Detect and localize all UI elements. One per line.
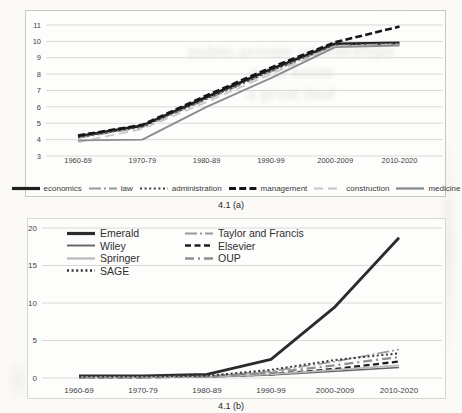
- series-line-economics: [78, 43, 400, 136]
- x-tick-label: 1980-89: [193, 156, 221, 165]
- legend-item-management: management: [228, 184, 308, 193]
- legend-item-springer: Springer: [66, 252, 184, 265]
- chart-b-panel: 051015201960-691970-791980-891990-992000…: [27, 218, 446, 399]
- legend-label: management: [261, 184, 308, 193]
- x-tick-label: 1960-69: [64, 156, 92, 165]
- y-tick-label: 10: [28, 299, 37, 308]
- y-tick-label: 7: [37, 86, 41, 95]
- x-tick-label: 1970-79: [129, 156, 157, 165]
- legend-label: economics: [44, 184, 82, 193]
- y-tick-label: 6: [37, 103, 41, 112]
- legend-label: Springer: [100, 252, 140, 265]
- legend-item-elsevier: Elsevier: [184, 240, 304, 253]
- legend-label: medicine: [428, 184, 460, 193]
- x-tick-label: 2000-2009: [317, 156, 353, 165]
- legend-item-law: law: [88, 184, 133, 193]
- legend-item-economics: economics: [11, 184, 82, 193]
- x-tick-label: 1960-69: [64, 386, 94, 395]
- legend-item-emerald: Emerald: [66, 227, 184, 240]
- legend-swatch-sage: [66, 266, 96, 275]
- legend-label: law: [121, 184, 133, 193]
- legend-swatch-economics: [11, 184, 41, 193]
- y-tick-label: 5: [37, 119, 41, 128]
- chart-a-plot: 345678910111960-691970-791980-891990-992…: [26, 11, 447, 171]
- legend-swatch-medicine: [395, 184, 425, 193]
- legend-label: Wiley: [100, 240, 126, 253]
- y-tick-label: 0: [33, 374, 38, 383]
- legend-item-sage: SAGE: [66, 265, 184, 278]
- legend-item-administration: administration: [139, 184, 222, 193]
- y-tick-label: 11: [33, 21, 41, 30]
- legend-swatch-springer: [66, 254, 96, 263]
- y-tick-label: 4: [37, 135, 41, 144]
- y-tick-label: 20: [28, 224, 37, 233]
- chart-a-caption: 4.1 (a): [0, 200, 462, 210]
- y-tick-label: 3: [37, 152, 41, 161]
- legend-label: OUP: [218, 252, 241, 265]
- legend-label: Emerald: [100, 227, 139, 240]
- y-tick-label: 8: [37, 70, 41, 79]
- x-tick-label: 2000-2009: [316, 386, 355, 395]
- x-tick-label: 1980-89: [192, 386, 222, 395]
- x-tick-label: 1970-79: [128, 386, 158, 395]
- legend-label: administration: [172, 184, 222, 193]
- chart-b-legend: EmeraldTaylor and FrancisWileyElsevierSp…: [66, 227, 304, 277]
- legend-swatch-management: [228, 184, 258, 193]
- series-line-sage: [79, 353, 399, 376]
- x-tick-label: 2010-2020: [380, 386, 419, 395]
- chart-a-legend: economicslawadministrationmanagementcons…: [26, 184, 445, 193]
- legend-swatch-taylor-and-francis: [184, 229, 214, 238]
- x-tick-label: 1990-99: [256, 386, 286, 395]
- legend-item-medicine: medicine: [395, 184, 460, 193]
- chart-b-caption: 4.1 (b): [0, 401, 462, 411]
- legend-label: SAGE: [100, 265, 129, 278]
- legend-swatch-emerald: [66, 229, 96, 238]
- chart-a-panel: public-private partnerships must know a …: [25, 10, 446, 197]
- legend-swatch-administration: [139, 184, 169, 193]
- legend-label: Taylor and Francis: [218, 227, 304, 240]
- x-tick-label: 1990-99: [257, 156, 285, 165]
- y-tick-label: 10: [33, 37, 41, 46]
- legend-item-oup: OUP: [184, 252, 304, 265]
- series-line-medicine: [78, 46, 400, 141]
- y-tick-label: 15: [28, 261, 37, 270]
- legend-item-wiley: Wiley: [66, 240, 184, 253]
- y-tick-label: 9: [37, 53, 41, 62]
- legend-swatch-construction: [313, 184, 343, 193]
- legend-item-taylor-and-francis: Taylor and Francis: [184, 227, 304, 240]
- legend-swatch-wiley: [66, 241, 96, 250]
- y-tick-label: 5: [33, 336, 38, 345]
- legend-label: construction: [346, 184, 389, 193]
- legend-item-construction: construction: [313, 184, 389, 193]
- legend-swatch-oup: [184, 254, 214, 263]
- legend-swatch-elsevier: [184, 241, 214, 250]
- x-tick-label: 2010-2020: [382, 156, 418, 165]
- legend-label: Elsevier: [218, 240, 255, 253]
- legend-swatch-law: [88, 184, 118, 193]
